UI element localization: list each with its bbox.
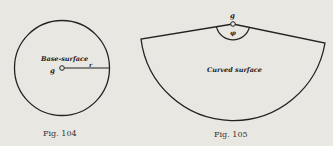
point-label: g (50, 66, 55, 75)
figure-caption: Fig. 105 (214, 130, 248, 139)
curved-surface-label: Curved surface (207, 66, 262, 74)
figure-105: g φ Curved surface Fig. 105 (141, 11, 325, 139)
figure-104: Base-surface r g Fig. 104 (15, 21, 110, 139)
apex-point-label: g (230, 11, 235, 20)
base-surface-label: Base-surface (40, 55, 88, 63)
center-point (60, 66, 65, 71)
apex-point (231, 22, 236, 27)
figure-caption: Fig. 104 (43, 129, 77, 138)
angle-label: φ (230, 29, 236, 37)
diagram-canvas: Base-surface r g Fig. 104 g φ Curved sur… (0, 0, 333, 146)
radius-label: r (89, 61, 93, 68)
